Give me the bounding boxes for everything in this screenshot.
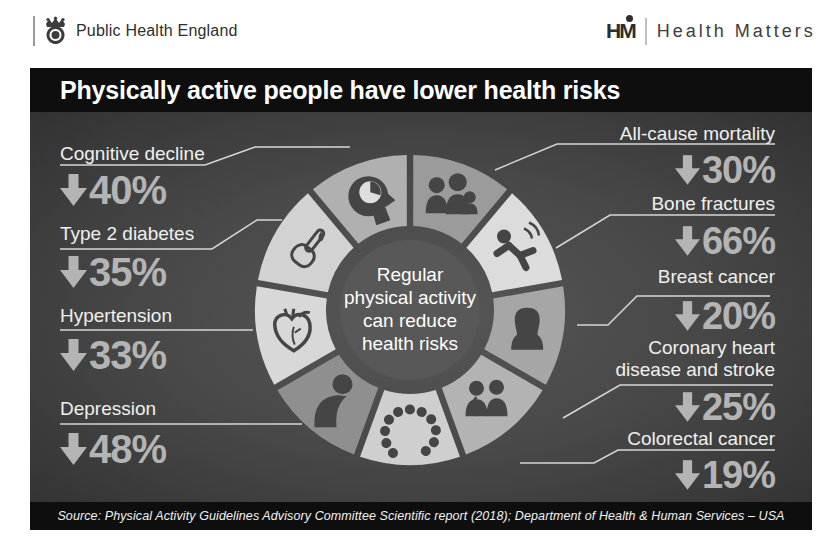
risk-coronary-heart-disease: Coronary heart disease and stroke 25% bbox=[585, 337, 775, 426]
risk-label: Depression bbox=[60, 398, 166, 420]
risk-value: 33% bbox=[60, 335, 172, 375]
risk-value: 25% bbox=[585, 388, 775, 426]
risk-cognitive-decline: Cognitive decline 40% bbox=[60, 143, 205, 210]
source-bar: Source: Physical Activity Guidelines Adv… bbox=[30, 502, 812, 530]
risk-label: Colorectal cancer bbox=[627, 428, 775, 450]
down-arrow-icon bbox=[60, 339, 87, 371]
donut-center-text: Regular physical activity can reduce hea… bbox=[300, 255, 520, 365]
risk-value: 30% bbox=[620, 151, 775, 189]
risk-type-2-diabetes: Type 2 diabetes 35% bbox=[60, 223, 194, 292]
health-matters-text: Health Matters bbox=[657, 21, 816, 42]
risk-value: 66% bbox=[651, 222, 775, 260]
risk-value: 19% bbox=[627, 456, 775, 494]
risk-value: 48% bbox=[60, 429, 166, 469]
risk-all-cause-mortality: All-cause mortality 30% bbox=[620, 123, 775, 189]
health-matters-logo: HM Health Matters bbox=[606, 16, 816, 46]
phe-crest-icon bbox=[42, 16, 69, 46]
risk-label: All-cause mortality bbox=[620, 123, 775, 145]
phe-logo: Public Health England bbox=[33, 16, 238, 46]
down-arrow-icon bbox=[675, 392, 700, 422]
risk-label: Coronary heart disease and stroke bbox=[585, 337, 775, 381]
hm-monogram-icon: HM bbox=[606, 16, 635, 46]
risk-breast-cancer: Breast cancer 20% bbox=[658, 266, 775, 335]
risk-value: 40% bbox=[60, 170, 205, 210]
down-arrow-icon bbox=[60, 433, 87, 465]
risk-bone-fractures: Bone fractures 66% bbox=[651, 193, 775, 260]
risk-value: 20% bbox=[658, 297, 775, 335]
phe-logo-text: Public Health England bbox=[76, 22, 238, 40]
divider bbox=[33, 16, 35, 46]
risk-label: Breast cancer bbox=[658, 266, 775, 288]
risk-label: Type 2 diabetes bbox=[60, 223, 194, 245]
risk-label: Cognitive decline bbox=[60, 143, 205, 165]
down-arrow-icon bbox=[675, 226, 700, 256]
risk-hypertension: Hypertension 33% bbox=[60, 305, 172, 375]
page: Public Health England HM Health Matters … bbox=[0, 0, 829, 552]
risk-value: 35% bbox=[60, 252, 194, 292]
page-header: Public Health England HM Health Matters bbox=[0, 0, 829, 68]
down-arrow-icon bbox=[675, 155, 700, 185]
down-arrow-icon bbox=[675, 460, 700, 490]
risk-depression: Depression 48% bbox=[60, 398, 166, 469]
risk-label: Bone fractures bbox=[651, 193, 775, 215]
down-arrow-icon bbox=[60, 256, 87, 288]
source-text: Source: Physical Activity Guidelines Adv… bbox=[57, 509, 784, 523]
down-arrow-icon bbox=[675, 301, 700, 331]
risk-label: Hypertension bbox=[60, 305, 172, 327]
hm-monogram-dot bbox=[626, 15, 633, 22]
divider bbox=[645, 18, 647, 45]
infographic-panel: Physically active people have lower heal… bbox=[30, 68, 812, 530]
risk-colorectal-cancer: Colorectal cancer 19% bbox=[627, 428, 775, 494]
down-arrow-icon bbox=[60, 174, 87, 206]
segment-colorectal-cancer bbox=[360, 390, 460, 465]
